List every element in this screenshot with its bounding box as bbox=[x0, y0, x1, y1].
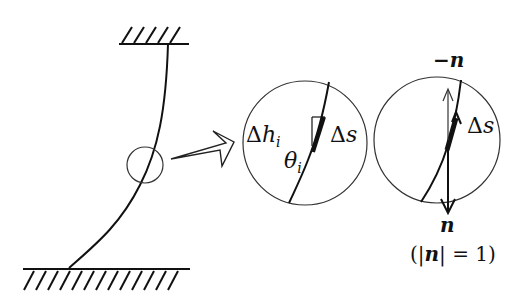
equals-one: = 1 bbox=[446, 242, 488, 266]
right-delta-s-label: Δs bbox=[467, 115, 494, 137]
norm-bar-left: | bbox=[418, 242, 425, 266]
delta-s-label: Δs bbox=[330, 124, 357, 146]
delta-symbol: Δ bbox=[467, 113, 483, 138]
normal-label: n bbox=[440, 215, 455, 235]
negative-normal-label: −n bbox=[433, 50, 464, 70]
paren-close: ) bbox=[488, 242, 496, 266]
s-variable: s bbox=[483, 113, 494, 138]
theta-label: θi bbox=[284, 150, 302, 175]
paren-open: ( bbox=[410, 242, 418, 266]
unit-norm-label: (|n| = 1) bbox=[410, 244, 496, 264]
element-marker-circle bbox=[127, 147, 163, 183]
delta-h-label: Δhi bbox=[246, 124, 281, 149]
s-variable: s bbox=[346, 122, 357, 147]
subscript-i: i bbox=[276, 134, 280, 150]
h-variable: h bbox=[262, 122, 276, 147]
zoom-arrow-icon bbox=[171, 131, 234, 166]
bottom-fixed-support bbox=[23, 269, 190, 290]
delta-symbol: Δ bbox=[246, 122, 262, 147]
normal-vector-circle-geometry bbox=[374, 77, 500, 213]
elastic-beam-curve bbox=[69, 44, 168, 268]
theta-variable: θ bbox=[284, 148, 297, 173]
n-variable: n bbox=[425, 242, 440, 266]
subscript-i: i bbox=[297, 160, 301, 176]
norm-bar-right: | bbox=[439, 242, 446, 266]
delta-symbol: Δ bbox=[330, 122, 346, 147]
top-fixed-support bbox=[119, 27, 189, 44]
